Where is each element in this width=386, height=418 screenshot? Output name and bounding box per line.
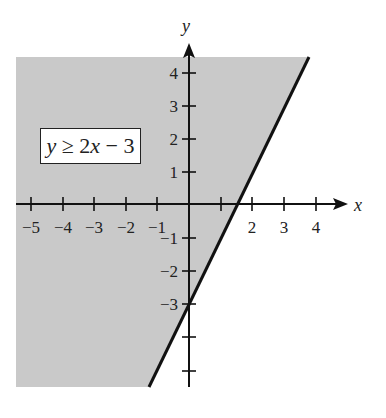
inequality-var-y: y xyxy=(46,133,56,159)
x-axis-label: x xyxy=(353,195,362,215)
svg-text:4: 4 xyxy=(312,218,321,237)
svg-text:−2: −2 xyxy=(160,262,178,281)
inequality-graph: −5 −4 −3 −2 −1 2 3 4 4 3 2 1 −1 −2 −3 x … xyxy=(0,0,386,418)
svg-text:1: 1 xyxy=(170,163,179,182)
svg-text:−4: −4 xyxy=(54,218,73,237)
svg-text:−5: −5 xyxy=(22,218,40,237)
svg-text:3: 3 xyxy=(280,218,289,237)
svg-text:3: 3 xyxy=(170,97,179,116)
svg-text:−3: −3 xyxy=(160,295,178,314)
svg-text:4: 4 xyxy=(170,64,179,83)
svg-text:2: 2 xyxy=(248,218,257,237)
inequality-var-x: x xyxy=(90,133,100,159)
inequality-label-box: y ≥ 2x − 3 xyxy=(40,128,141,164)
svg-text:−1: −1 xyxy=(160,229,178,248)
svg-text:−3: −3 xyxy=(85,218,103,237)
inequality-tail: − 3 xyxy=(100,133,134,159)
y-axis-label: y xyxy=(180,16,190,36)
svg-text:2: 2 xyxy=(170,130,179,149)
inequality-op: ≥ 2 xyxy=(56,133,90,159)
svg-text:−2: −2 xyxy=(117,218,135,237)
